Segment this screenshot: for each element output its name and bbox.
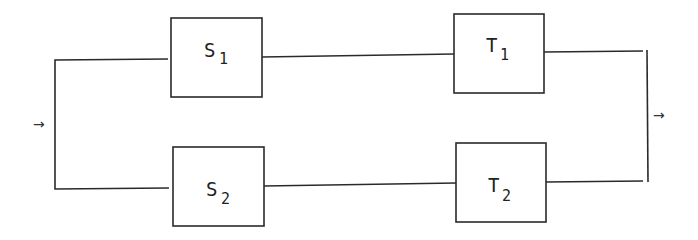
- input-bus-wire: [55, 59, 169, 189]
- block-s2: S 2: [173, 147, 264, 226]
- reliability-block-diagram: → → S 1 T 1 S 2 T 2: [0, 0, 698, 240]
- wire-s1-t1: [262, 54, 454, 57]
- block-s1-letter: S: [204, 39, 215, 61]
- block-s2-letter: S: [206, 178, 217, 200]
- block-s2-subscript: 2: [221, 190, 230, 208]
- block-t2-letter: T: [488, 174, 499, 196]
- input-arrow-icon: →: [33, 116, 45, 132]
- block-t1: T 1: [454, 14, 544, 93]
- block-s1: S 1: [171, 18, 262, 97]
- block-t2: T 2: [456, 143, 546, 222]
- block-t2-subscript: 2: [502, 187, 511, 205]
- wire-s2-t2: [264, 183, 456, 186]
- wire-t2-output: [546, 181, 643, 182]
- block-t1-letter: T: [486, 34, 497, 56]
- output-arrow-icon: →: [653, 107, 665, 123]
- output-bus-wire: [647, 50, 648, 182]
- wire-t1-output: [544, 51, 643, 52]
- block-t1-subscript: 1: [500, 46, 509, 64]
- block-s1-subscript: 1: [219, 50, 228, 68]
